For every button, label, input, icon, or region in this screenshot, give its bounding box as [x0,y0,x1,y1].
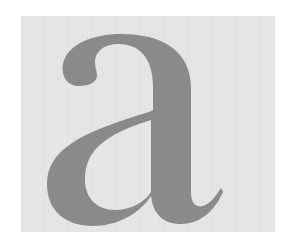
glyph-panel: a [21,16,275,232]
letter-a-glyph [21,16,275,232]
